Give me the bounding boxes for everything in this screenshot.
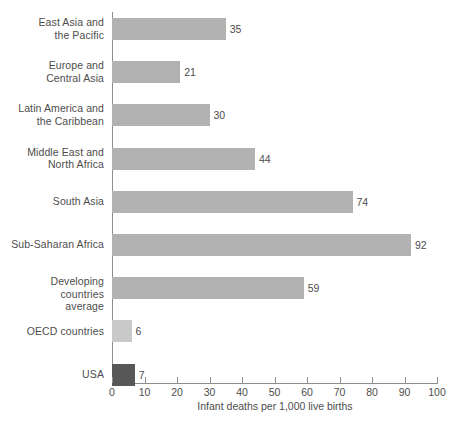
x-axis-tick <box>405 377 406 383</box>
bar <box>112 104 210 126</box>
x-axis-tick <box>210 377 211 383</box>
bar <box>112 320 132 342</box>
category-label: USA <box>4 368 104 381</box>
x-axis-tick-label: 80 <box>366 386 378 398</box>
x-axis-tick <box>372 377 373 383</box>
x-axis-tick <box>437 377 438 383</box>
category-label: OECD countries <box>4 325 104 338</box>
bar-value-label: 92 <box>415 234 427 256</box>
bar-value-label: 59 <box>308 277 320 299</box>
x-axis-tick <box>307 377 308 383</box>
plot-area: Infant deaths per 1,000 live births 3521… <box>112 0 462 428</box>
x-axis-tick <box>275 377 276 383</box>
x-axis-tick-label: 40 <box>236 386 248 398</box>
category-label: East Asia andthe Pacific <box>4 16 104 41</box>
x-axis-tick-label: 10 <box>139 386 151 398</box>
x-axis-title: Infant deaths per 1,000 live births <box>112 400 438 412</box>
x-axis-tick-label: 20 <box>171 386 183 398</box>
bar <box>112 148 255 170</box>
bar <box>112 364 135 386</box>
bar <box>112 61 180 83</box>
x-axis-tick <box>340 377 341 383</box>
bar <box>112 234 411 256</box>
category-label: Developing countriesaverage <box>4 275 104 313</box>
x-axis-tick-label: 90 <box>399 386 411 398</box>
x-axis-tick-label: 0 <box>109 386 115 398</box>
infant-mortality-bar-chart: East Asia andthe PacificEurope andCentra… <box>0 0 462 428</box>
category-label-column: East Asia andthe PacificEurope andCentra… <box>4 0 104 428</box>
x-axis-tick-label: 100 <box>428 386 446 398</box>
bar <box>112 18 226 40</box>
x-axis-tick-label: 30 <box>204 386 216 398</box>
bar-value-label: 21 <box>184 61 196 83</box>
bar-value-label: 6 <box>136 320 142 342</box>
x-axis-tick <box>242 377 243 383</box>
category-label: South Asia <box>4 195 104 208</box>
bar-value-label: 35 <box>230 18 242 40</box>
x-axis-tick <box>177 377 178 383</box>
x-axis-tick-label: 60 <box>301 386 313 398</box>
x-axis-tick-label: 70 <box>334 386 346 398</box>
bar <box>112 277 304 299</box>
bar <box>112 191 353 213</box>
bar-value-label: 30 <box>214 104 226 126</box>
x-axis-tick <box>145 377 146 383</box>
bar-value-label: 44 <box>259 148 271 170</box>
bar-value-label: 74 <box>357 191 369 213</box>
category-label: Latin America andthe Caribbean <box>4 102 104 127</box>
x-axis-line <box>112 383 438 384</box>
x-axis-tick-label: 50 <box>269 386 281 398</box>
category-label: Middle East andNorth Africa <box>4 146 104 171</box>
category-label: Europe andCentral Asia <box>4 59 104 84</box>
x-axis-tick <box>112 377 113 383</box>
category-label: Sub-Saharan Africa <box>4 238 104 251</box>
